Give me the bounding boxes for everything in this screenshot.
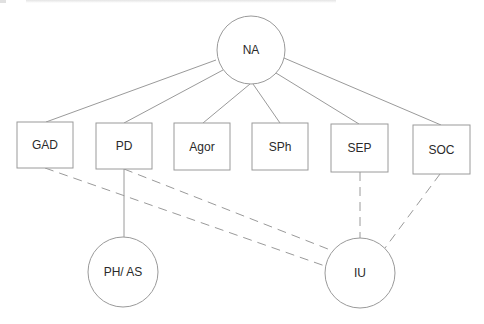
node-label: IU — [354, 266, 366, 280]
node-label: GAD — [32, 138, 58, 152]
edge-pd-to-iu — [124, 169, 333, 251]
edge-na-to-soc — [284, 58, 441, 125]
edge-soc-to-iu — [385, 174, 440, 248]
node-label: PD — [116, 139, 133, 153]
node-sep: SEP — [331, 124, 388, 172]
node-label: Agor — [189, 140, 214, 154]
edge-gad-to-iu — [45, 168, 325, 266]
node-na: NA — [217, 16, 285, 84]
edge-na-to-sep — [276, 73, 359, 124]
diagnosis-network-diagram: NAGADPDAgorSPhSEPSOCPH/ ASIU — [0, 0, 484, 324]
node-soc: SOC — [413, 125, 470, 174]
node-label: SOC — [428, 143, 454, 157]
edge-na-to-agor — [203, 84, 250, 123]
node-pd: PD — [96, 123, 152, 169]
edge-na-to-pd — [124, 70, 223, 123]
node-label: NA — [243, 43, 260, 57]
node-agor: Agor — [174, 123, 230, 170]
node-label: SPh — [269, 140, 292, 154]
edge-na-to-sph — [253, 84, 280, 123]
node-label: PH/ AS — [104, 265, 143, 279]
node-gad: GAD — [17, 122, 73, 168]
node-iu: IU — [325, 238, 395, 308]
node-sph: SPh — [252, 123, 308, 170]
edge-na-to-gad — [46, 60, 216, 122]
node-phas: PH/ AS — [88, 237, 158, 307]
node-label: SEP — [347, 141, 371, 155]
